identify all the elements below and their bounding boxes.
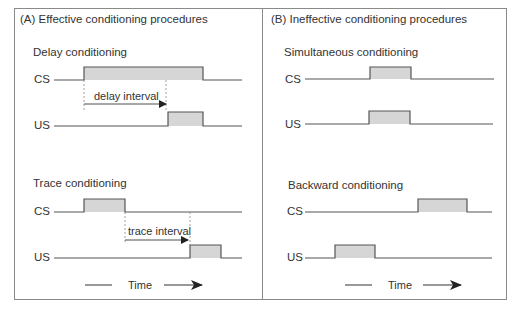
delay-cs-waveform	[54, 67, 242, 80]
delay-interval-marker	[84, 80, 166, 110]
timing-diagram	[0, 0, 516, 311]
delay-us-waveform	[54, 112, 242, 126]
trace-interval-marker	[125, 212, 190, 245]
trace-cs-waveform	[54, 199, 242, 212]
simultaneous-us-waveform	[305, 111, 493, 124]
simultaneous-cs-waveform	[305, 67, 494, 79]
backward-us-waveform	[305, 245, 492, 258]
backward-cs-waveform	[305, 199, 492, 212]
trace-us-waveform	[54, 245, 242, 258]
